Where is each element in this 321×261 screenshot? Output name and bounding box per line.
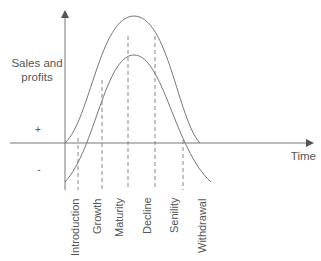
stage-label-growth: Growth (91, 199, 103, 234)
stage-labels: Introduction Growth Maturity Decline Sen… (69, 197, 208, 256)
stage-label-decline: Decline (141, 197, 153, 234)
stage-label-maturity: Maturity (113, 197, 125, 237)
stage-label-withdrawal: Withdrawal (196, 199, 208, 253)
y-axis-label-line2: profits (21, 71, 53, 83)
plus-sign: + (35, 124, 41, 135)
product-life-cycle-diagram: Sales and profits + - Time Introduction … (0, 0, 321, 261)
minus-sign: - (37, 164, 40, 175)
profits-curve (65, 55, 211, 182)
x-axis-label: Time (291, 150, 316, 162)
y-axis-label-line1: Sales and (11, 57, 62, 69)
stage-label-introduction: Introduction (69, 199, 81, 256)
sales-curve (65, 16, 200, 143)
stage-label-senility: Senility (168, 197, 180, 233)
